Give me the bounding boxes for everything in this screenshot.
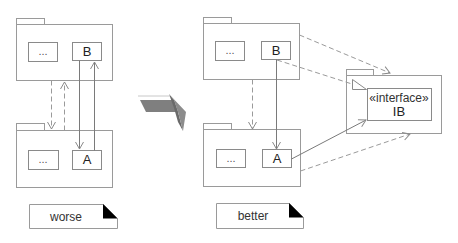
block-arrow-right-icon: [138, 94, 186, 131]
worse-class-b: B: [73, 43, 102, 61]
better-top-package: ... B: [204, 18, 300, 80]
worse-top-element-dots: ...: [29, 43, 58, 62]
svg-text:B: B: [272, 43, 281, 58]
worse-top-package: ... B: [17, 19, 113, 81]
svg-text:«interface»: «interface»: [369, 91, 429, 105]
better-note: better: [217, 203, 304, 229]
better-bottom-element-dots: ...: [217, 150, 246, 168]
svg-text:A: A: [83, 152, 92, 167]
svg-text:worse: worse: [49, 210, 82, 224]
svg-text:...: ...: [38, 45, 47, 57]
better-bottom-package: ... A: [204, 124, 301, 187]
svg-text:A: A: [273, 151, 282, 166]
worse-bottom-package: ... A: [17, 124, 113, 188]
interface-package: «interface» IB: [347, 70, 442, 134]
better-class-a: A: [263, 150, 292, 168]
interface-ib: «interface» IB: [368, 89, 432, 121]
better-top-element-dots: ...: [216, 42, 245, 61]
svg-text:better: better: [238, 209, 269, 223]
svg-text:...: ...: [226, 152, 235, 164]
svg-text:IB: IB: [393, 104, 405, 119]
worse-bottom-element-dots: ...: [29, 151, 59, 170]
svg-text:B: B: [83, 44, 92, 59]
better-class-b: B: [262, 42, 291, 60]
better-top-pkg-to-interface-pkg-dependency: [300, 35, 391, 73]
better-bottom-pkg-to-interface-pkg-dependency: [301, 134, 411, 171]
svg-text:...: ...: [38, 153, 47, 165]
note-fold-corner-icon: [103, 204, 118, 219]
worse-note: worse: [30, 204, 118, 229]
worse-class-a: A: [73, 151, 102, 170]
svg-text:...: ...: [225, 44, 234, 56]
dependency-diagram: ... B ... A worse: [0, 0, 458, 243]
